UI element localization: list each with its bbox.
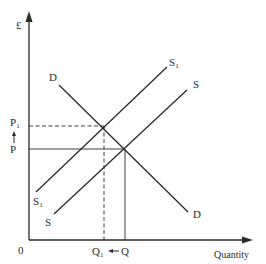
price-label-p1: P1 — [10, 117, 20, 130]
x-axis-label: Quantity — [214, 250, 249, 260]
y-axis-arrow-icon — [26, 11, 33, 22]
quantity-left-arrow-icon — [108, 249, 113, 253]
s1-bottom-sub: 1 — [39, 201, 43, 209]
price-up-arrow-icon — [12, 131, 16, 136]
p1-sub: 1 — [16, 122, 20, 130]
price-label-p: P — [10, 144, 16, 155]
demand-label-bottom: D — [193, 209, 201, 220]
supply-curve-original — [54, 90, 187, 214]
supply-shifted-label-bottom: S1 — [33, 196, 43, 209]
demand-label-top: D — [49, 72, 57, 83]
quantity-label-q: Q — [121, 246, 129, 257]
supply-demand-diagram — [0, 0, 266, 264]
quantity-label-q1: Q1 — [92, 246, 103, 259]
supply-original-label-top: S — [193, 79, 199, 90]
supply-original-label-bottom: S — [45, 217, 51, 228]
q1-letter: Q — [92, 245, 100, 257]
origin-label: 0 — [18, 245, 24, 256]
s1-top-sub: 1 — [175, 62, 179, 70]
x-axis-arrow-icon — [242, 237, 253, 244]
q1-sub: 1 — [100, 251, 104, 259]
y-axis-label: £ — [16, 20, 22, 31]
supply-shifted-label-top: S1 — [169, 57, 179, 70]
supply-curve-shifted — [36, 67, 167, 192]
